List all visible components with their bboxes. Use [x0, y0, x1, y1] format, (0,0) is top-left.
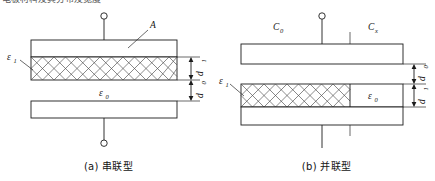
- upper-electrode-plate-b: [241, 44, 403, 64]
- dielectric-slab-a: [31, 57, 177, 80]
- diagram-series-type: A ε 1 ε 0 d 1: [0, 0, 217, 160]
- label-epsilon0-a: ε: [99, 88, 103, 98]
- bottom-terminal-node-a: [101, 140, 107, 146]
- dimension-d1-b: [412, 84, 417, 107]
- diagram-parallel-type: C 0 C x ε 1 ε 0: [218, 0, 435, 160]
- dimension-d0-b: [412, 64, 417, 84]
- top-terminal-node-a: [101, 13, 107, 19]
- label-epsilon1-b: ε: [219, 76, 223, 86]
- figure-panel-b: C 0 C x ε 1 ε 0: [218, 0, 435, 181]
- label-area-a: A: [149, 20, 156, 30]
- label-epsilon1-sub-b: 1: [226, 81, 229, 88]
- label-d1-b: d: [417, 99, 427, 104]
- lower-electrode-plate-a: [31, 101, 177, 118]
- label-d0-sub-b: 0: [422, 65, 429, 69]
- label-d0-a: d: [195, 93, 205, 98]
- label-d0-b: d: [417, 76, 427, 81]
- label-c0-sub-b: 0: [280, 27, 284, 34]
- dimension-d1-a: [189, 57, 194, 80]
- lower-electrode-plate-b: [241, 107, 403, 125]
- label-d0-sub-a: 0: [200, 81, 207, 85]
- dielectric-slab-b: [241, 84, 403, 107]
- label-cx-b: C: [368, 22, 375, 32]
- dimension-d0-a: [189, 80, 194, 101]
- figure-panel-a: A ε 1 ε 0 d 1: [0, 0, 217, 181]
- label-epsilon0-b: ε: [368, 91, 372, 101]
- top-terminal-node-b: [319, 13, 325, 19]
- label-d1-sub-b: 1: [422, 87, 429, 90]
- label-epsilon1-a: ε: [7, 52, 11, 62]
- label-epsilon1-sub-a: 1: [14, 57, 17, 64]
- caption-panel-a: (a) 串联型: [0, 158, 217, 173]
- caption-panel-b: (b) 并联型: [218, 158, 435, 173]
- label-cx-sub-b: x: [374, 27, 378, 34]
- label-c0-b: C: [273, 22, 280, 32]
- label-d1-a: d: [195, 71, 205, 76]
- label-d1-sub-a: 1: [200, 59, 207, 62]
- label-epsilon0-sub-a: 0: [106, 93, 110, 100]
- figure-root: 电极材料及其分布及宽度 A ε 1: [0, 0, 435, 181]
- upper-electrode-plate-a: [31, 40, 177, 57]
